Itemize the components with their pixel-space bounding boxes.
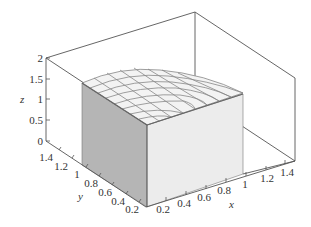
z-tick-label: 0 xyxy=(38,135,44,147)
x-axis-label: x xyxy=(228,198,234,210)
surface-plot: 2 1.5 1 0.5 0 z 1.4 1.2 1 0.8 0.6 0.4 0.… xyxy=(0,0,311,227)
z-axis: 2 1.5 1 0.5 0 z xyxy=(19,52,50,147)
x-tick-label: 1.2 xyxy=(260,172,274,184)
y-tick-label: 1.2 xyxy=(54,160,68,172)
z-tick-label: 1 xyxy=(38,93,44,105)
y-tick-label: 0.8 xyxy=(84,177,98,189)
y-axis-label: y xyxy=(77,190,83,202)
y-tick-label: 0.4 xyxy=(111,195,125,207)
x-tick-label: 0.2 xyxy=(156,203,170,215)
z-axis-label: z xyxy=(19,93,25,105)
y-tick-label: 0.2 xyxy=(125,203,139,215)
z-tick-label: 2 xyxy=(38,52,44,64)
x-tick-label: 0.8 xyxy=(217,184,231,196)
y-tick-label: 1 xyxy=(74,168,80,180)
x-tick-label: 1 xyxy=(242,178,248,190)
z-tick-label: 0.5 xyxy=(29,114,43,126)
z-tick-label: 1.5 xyxy=(29,73,43,85)
x-tick-label: 0.4 xyxy=(177,197,191,209)
x-tick-label: 1.4 xyxy=(280,166,294,178)
x-tick-label: 0.6 xyxy=(197,191,211,203)
y-tick-label: 1.4 xyxy=(39,151,53,163)
